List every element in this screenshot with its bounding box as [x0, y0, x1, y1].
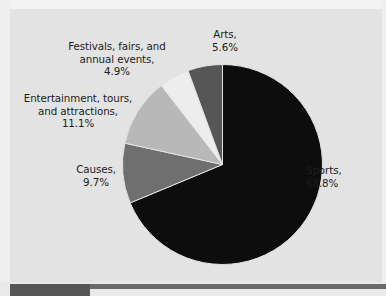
pie-plot-area — [122, 64, 323, 265]
slice-label-sports: Sports, 68.8% — [306, 164, 382, 189]
page-right-edge — [382, 0, 386, 296]
slice-label-arts: Arts, 5.6% — [188, 28, 262, 53]
pie-slice-group — [122, 65, 322, 265]
page-bottom-tab — [10, 284, 90, 296]
slice-label-festivals: Festivals, fairs, and annual events, 4.9… — [52, 40, 182, 78]
slice-label-entertainment: Entertainment, tours, and attractions, 1… — [8, 92, 148, 130]
pie-svg — [122, 64, 323, 265]
slice-label-causes: Causes, 9.7% — [44, 163, 148, 188]
pie-chart-figure: Arts, 5.6% Festivals, fairs, and annual … — [0, 0, 386, 296]
page-left-edge — [0, 0, 10, 296]
page-top-edge — [0, 0, 386, 9]
